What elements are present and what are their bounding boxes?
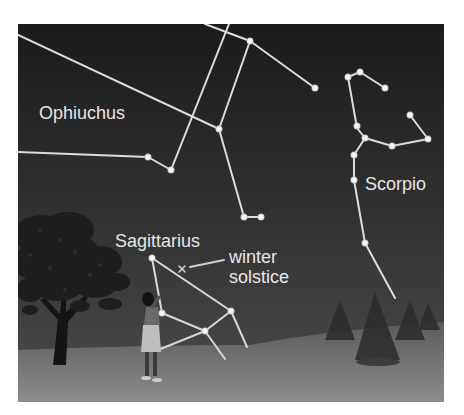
label-ophiuchus: Ophiuchus	[39, 103, 125, 123]
sky-illustration: Ophiuchus Scorpio Sagittarius winter sol…	[18, 24, 444, 402]
label-sagittarius: Sagittarius	[115, 231, 200, 251]
label-winter: winter	[229, 247, 277, 267]
label-scorpio: Scorpio	[365, 174, 426, 194]
label-solstice: solstice	[229, 267, 289, 287]
scene-svg	[18, 24, 444, 402]
